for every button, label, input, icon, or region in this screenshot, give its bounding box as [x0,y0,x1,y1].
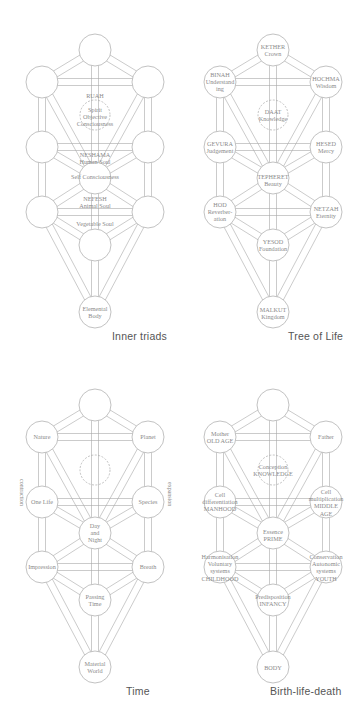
node-label-line: systems [202,567,239,574]
sephirah-binah [26,66,58,98]
node-label: NESHAMAHuman Soul [79,151,110,165]
node-label-line: World [85,667,106,674]
node-label-line: Consciousness [77,121,113,128]
node-label-line: Foundation [259,245,287,252]
node-label: YESODFoundation [259,238,287,252]
sephirah-yesod [79,229,111,261]
node-label: EssencePRIME [263,528,283,542]
panel-birth-life-death: Birth-life-death MotherOLD AGEFatherConc… [178,355,356,710]
path-channel [217,569,270,669]
node-label-line: Autonomic [310,560,343,567]
node-label: DayandNight [88,522,102,544]
node-label: BINAHUnderstanding [206,71,235,93]
path-channel [98,569,151,669]
node-label-line: KETHER [261,43,285,50]
sephirah-hochma [132,66,164,98]
node-label-line: Vegetable Soul [76,220,113,227]
node-label-line: Father [318,433,334,440]
node-label-line: Human Soul [79,158,110,165]
node-label-line: Reverber- [208,208,233,215]
node-label-line: Spirit [77,106,113,113]
node-label-line: YESOD [259,238,287,245]
node-label-line: NESHAMA [79,151,110,158]
node-label-line: Voluntary [202,560,239,567]
node-label: Impression [28,563,56,570]
sephirah-daat [80,455,110,485]
node-label-line: PRIME [263,535,283,542]
caption: Time [126,685,150,697]
node-label: PassingTime [86,593,105,607]
node-label-line: Conception [253,463,293,470]
node-label-line: CHILDHOOD [202,574,239,581]
node-label-line: MANHOOD [202,506,237,513]
node-label: Species [139,498,158,505]
node-label-line: Understand [206,78,235,85]
caption: Tree of Life [288,330,343,342]
path-channel [270,435,323,531]
node-label-line: Judgement [207,147,234,154]
path-channel [39,569,92,669]
node-label-line: GEVURA [207,140,234,147]
side-label-expansion: expansion [167,482,173,506]
panel-tree-of-life: Tree of Life KETHERCrownBINAHUnderstandi… [178,0,356,355]
sephirah-gevura [26,131,58,163]
node-label-line: ing [206,86,235,93]
path-channel [39,214,92,314]
node-label-line: Nature [34,433,51,440]
node-label-line: MALKUT [260,306,286,313]
sephirah-netzah [132,196,164,228]
node-label: DAATKnowledge [259,108,288,122]
node-label: GEVURAJudgement [207,140,234,154]
node-label-line: Essence [263,528,283,535]
node-label-line: KNOWLEDGE [253,470,293,477]
node-label: CelldifferentiationMANHOOD [202,491,237,513]
node-label-line: NEFESH [79,195,110,202]
node-label: MaterialWorld [85,660,106,674]
node-label-line: Material [85,660,106,667]
node-label: TEPHERETBeauty [258,173,289,187]
node-label-line: TEPHERET [258,173,289,180]
node-label: Breath [140,563,157,570]
node-label-line: AGE [309,509,344,516]
node-label-line: MIDDLE [309,502,344,509]
node-label-line: Wisdom [312,82,340,89]
node-label-line: Impression [28,563,56,570]
node-label: HESEDMercy [316,140,336,154]
node-label: CellmultiplicationMIDDLEAGE [309,488,344,517]
node-label-line: systems [310,567,343,574]
node-label-line: Objective [77,113,113,120]
path-channel [276,569,329,669]
node-label-line: Kingdom [260,313,286,320]
caption: Birth-life-death [270,685,341,697]
node-label-line: NETZAH [314,205,339,212]
path-channel [98,214,151,314]
caption: Inner triads [112,330,167,342]
node-label-line: OLD AGE [207,437,234,444]
node-label-line: Time [86,600,105,607]
path-channel [217,214,270,314]
node-label-line: Animal Soul [79,202,110,209]
path-channel [92,435,145,531]
node-label: Father [318,433,334,440]
sephirah-hesed [132,131,164,163]
node-label: HOCHMAWisdom [312,75,340,89]
node-label-line: Cell [309,488,344,495]
node-label: NEFESHAnimal Soul [79,195,110,209]
node-label: BODY [264,664,282,671]
node-label: Vegetable Soul [76,220,113,227]
node-label-line: HOCHMA [312,75,340,82]
node-label-line: YOUTH [310,574,343,581]
node-label-line: ation [208,216,233,223]
node-label: ElementalBody [82,305,107,319]
node-label: Planet [140,433,155,440]
node-label-line: differentiation [202,498,237,505]
node-label-line: Eternity [314,212,339,219]
sephirah-kether [79,34,111,66]
node-label-line: Planet [140,433,155,440]
sephirah-hod [26,196,58,228]
node-label: RUAH [86,92,104,99]
node-label: Self Consciousness [71,173,119,180]
node-label-line: and [88,529,102,536]
node-label-line: HOD [208,201,233,208]
node-label-line: One Life [31,498,53,505]
